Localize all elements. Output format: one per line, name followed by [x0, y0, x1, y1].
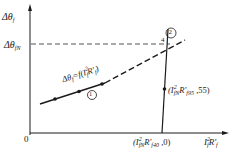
- diagram-canvas: [0, 0, 231, 156]
- origin-label: 0: [24, 135, 29, 144]
- data-point-95: [163, 87, 167, 91]
- line-1-marker: 1: [89, 91, 92, 98]
- x-axis-arrow-icon: [222, 131, 229, 135]
- x-axis-label: I2fR'f: [204, 136, 218, 148]
- y-axis-arrow-icon: [28, 4, 32, 11]
- rated-level-label: ΔθfN: [4, 40, 20, 51]
- data-point: [53, 97, 57, 101]
- line-2-marker: 2: [169, 29, 173, 36]
- intersection-marker: 4: [161, 37, 165, 44]
- line-1-solid: [40, 83, 105, 104]
- data-point: [77, 90, 81, 94]
- line-1-dashed-extension: [105, 40, 185, 83]
- lower-point-label: (I2fNR'f40 ,0): [133, 136, 170, 148]
- line-2: [162, 29, 168, 133]
- data-point: [100, 82, 104, 86]
- y-axis-label: Δθf: [2, 12, 14, 23]
- upper-point-label: (I2fNR'f95 ,55): [168, 84, 210, 96]
